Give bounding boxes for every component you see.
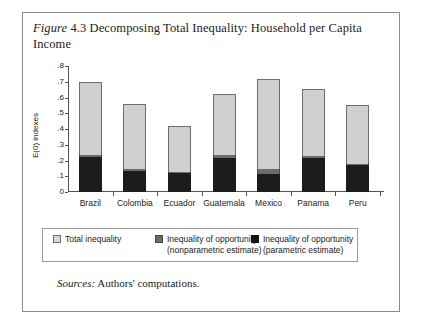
y-axis-tick-mark <box>65 98 68 99</box>
figure-page: Figure 4.3 Decomposing Total Inequality:… <box>0 0 422 329</box>
bar-group <box>257 66 280 192</box>
x-axis-label: Peru <box>349 198 367 208</box>
bar-group <box>168 66 191 192</box>
legend-item[interactable]: Inequality of opportunity(parametric est… <box>251 234 353 256</box>
y-axis-tick-mark <box>65 66 68 67</box>
x-axis-tick-mark <box>113 192 114 196</box>
x-axis-label: Guatemala <box>203 198 245 208</box>
x-axis-label: Panama <box>297 198 329 208</box>
bar-segment-parametric <box>123 171 146 192</box>
source-text: Authors' computations. <box>97 277 199 289</box>
x-axis-label: Colombia <box>117 198 153 208</box>
chart-legend: Total inequalityInequality of opportunit… <box>42 228 358 262</box>
y-axis-tick-label: .1 <box>50 172 64 180</box>
x-axis-tick-mark <box>246 192 247 196</box>
legend-item-label: Inequality of opportunity(parametric est… <box>263 234 353 256</box>
y-axis-tick-mark <box>65 192 68 193</box>
legend-item-label: Inequality of opportunity(nonparametric … <box>167 234 261 256</box>
y-axis-tick-mark <box>65 161 68 162</box>
legend-item[interactable]: Total inequality <box>53 234 121 245</box>
legend-item-label: Total inequality <box>65 234 121 245</box>
total-inequality-swatch <box>53 235 61 243</box>
x-axis-tick-mark <box>380 192 381 196</box>
bar-segment-parametric <box>257 174 280 192</box>
bar-segment-parametric <box>213 158 236 192</box>
source-note: Sources: Authors' computations. <box>57 277 199 289</box>
x-axis-label: Brazil <box>80 198 101 208</box>
bar-segment-parametric <box>168 173 191 192</box>
legend-item[interactable]: Inequality of opportunity(nonparametric … <box>155 234 261 256</box>
y-axis-tick-label: .3 <box>50 141 64 149</box>
x-axis-label: Ecuador <box>164 198 196 208</box>
x-axis-tick-mark <box>291 192 292 196</box>
source-label: Sources: <box>57 277 95 289</box>
figure-label: Figure <box>33 21 67 35</box>
x-axis-tick-mark <box>335 192 336 196</box>
y-axis-tick-label: .8 <box>50 62 64 70</box>
plot-area: 0.1.2.3.4.5.6.7.8 <box>68 66 380 192</box>
x-axis-tick-mark <box>202 192 203 196</box>
bar-segment-parametric <box>302 158 325 192</box>
bar-segment-parametric <box>346 165 369 192</box>
y-axis-tick-label: .7 <box>50 78 64 86</box>
figure-title: Figure 4.3 Decomposing Total Inequality:… <box>33 20 385 52</box>
bar-group <box>79 66 102 192</box>
y-axis-tick-label: .6 <box>50 94 64 102</box>
y-axis-tick-mark <box>65 129 68 130</box>
chart-area: E(0) indexes 0.1.2.3.4.5.6.7.8 BrazilCol… <box>33 62 383 214</box>
parametric-swatch <box>251 235 259 243</box>
y-axis-tick-mark <box>65 145 68 146</box>
figure-number: 4.3 <box>70 21 86 35</box>
nonparametric-swatch <box>155 235 163 243</box>
y-axis-line <box>68 66 69 192</box>
x-axis-label: Mexico <box>255 198 282 208</box>
bar-segment-parametric <box>79 157 102 192</box>
y-axis-tick-label: .2 <box>50 157 64 165</box>
y-axis-tick-label: .4 <box>50 125 64 133</box>
y-axis-tick-mark <box>65 176 68 177</box>
y-axis-tick-label: .5 <box>50 109 64 117</box>
y-axis-tick-mark <box>65 113 68 114</box>
y-axis-label: E(0) indexes <box>31 96 45 176</box>
y-axis-tick-mark <box>65 82 68 83</box>
bar-group <box>302 66 325 192</box>
bar-group <box>123 66 146 192</box>
bar-group <box>346 66 369 192</box>
y-axis-tick-label: 0 <box>50 188 64 196</box>
x-axis-tick-mark <box>157 192 158 196</box>
bar-group <box>213 66 236 192</box>
